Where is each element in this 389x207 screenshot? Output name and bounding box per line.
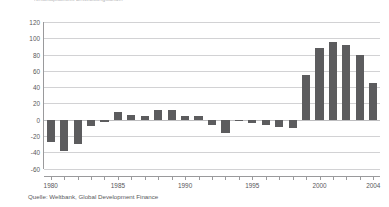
x-axis-label-1985: 1985 [111, 182, 125, 189]
y-axis-label--60: -60 [31, 165, 40, 172]
x-tick-1982 [78, 177, 79, 180]
y-axis-label-40: 40 [33, 84, 40, 91]
y-axis-label--40: -40 [31, 149, 40, 156]
x-tick-1983 [91, 177, 92, 180]
bar-1990 [181, 116, 189, 119]
bar-1999 [302, 75, 310, 120]
x-tick-1999 [306, 177, 307, 180]
chart-figure: Nettokapitalfluss Entwicklungsländer 120… [0, 0, 389, 207]
bar-1983 [87, 120, 95, 127]
x-axis-label-1990: 1990 [178, 182, 192, 189]
gridline--60 [44, 169, 380, 170]
x-tick-1997 [279, 177, 280, 180]
x-tick-2004 [373, 177, 374, 180]
x-tick-1981 [64, 177, 65, 180]
bar-2000 [315, 48, 323, 120]
plot-area: 120100806040200-20-40-60 [44, 22, 380, 169]
source-note: Quelle: Weltbank, Global Development Fin… [28, 193, 158, 200]
x-tick-1990 [185, 177, 186, 180]
y-axis-label-20: 20 [33, 100, 40, 107]
x-tick-1992 [212, 177, 213, 180]
bar-2001 [329, 42, 337, 120]
x-tick-2002 [346, 177, 347, 180]
bar-1996 [262, 120, 270, 125]
x-tick-1985 [118, 177, 119, 180]
x-tick-1998 [293, 177, 294, 180]
x-axis-label-1980: 1980 [44, 182, 58, 189]
bar-1981 [60, 120, 68, 151]
x-tick-1994 [239, 177, 240, 180]
bar-1987 [141, 116, 149, 120]
bar-1992 [208, 120, 216, 125]
y-axis-label-120: 120 [29, 19, 40, 26]
chart-title-clipped: Nettokapitalfluss Entwicklungsländer [34, 0, 364, 5]
bar-1980 [47, 120, 55, 142]
x-tick-1991 [199, 177, 200, 180]
bar-1994 [235, 120, 243, 121]
category-axis: 198019851990199520002004 [44, 176, 380, 177]
y-axis-label--20: -20 [31, 133, 40, 140]
x-axis-label-1995: 1995 [245, 182, 259, 189]
y-axis-label-0: 0 [36, 116, 40, 123]
bar-series [44, 22, 380, 169]
bar-1988 [154, 110, 162, 120]
x-tick-1993 [225, 177, 226, 180]
bar-2004 [369, 83, 377, 120]
x-tick-1986 [131, 177, 132, 180]
x-tick-1989 [172, 177, 173, 180]
bar-1984 [100, 120, 108, 122]
x-tick-2003 [360, 177, 361, 180]
y-axis-label-100: 100 [29, 35, 40, 42]
x-axis-label-2000: 2000 [312, 182, 326, 189]
x-tick-2000 [320, 177, 321, 180]
x-tick-1987 [145, 177, 146, 180]
bar-1986 [127, 115, 135, 120]
bar-1989 [168, 110, 176, 120]
x-tick-1995 [252, 177, 253, 180]
x-tick-2001 [333, 177, 334, 180]
bar-1993 [221, 120, 229, 133]
bar-1997 [275, 120, 283, 127]
bar-2002 [342, 45, 350, 120]
bar-1995 [248, 120, 256, 123]
y-axis-label-60: 60 [33, 67, 40, 74]
bar-2003 [356, 55, 364, 120]
x-tick-1984 [104, 177, 105, 180]
bar-1982 [74, 120, 82, 144]
y-axis-label-80: 80 [33, 51, 40, 58]
x-axis-label-2004: 2004 [366, 182, 380, 189]
x-tick-1996 [266, 177, 267, 180]
bar-1991 [194, 116, 202, 120]
bar-1985 [114, 112, 122, 119]
x-tick-1988 [158, 177, 159, 180]
bar-1998 [289, 120, 297, 128]
x-tick-1980 [51, 177, 52, 180]
